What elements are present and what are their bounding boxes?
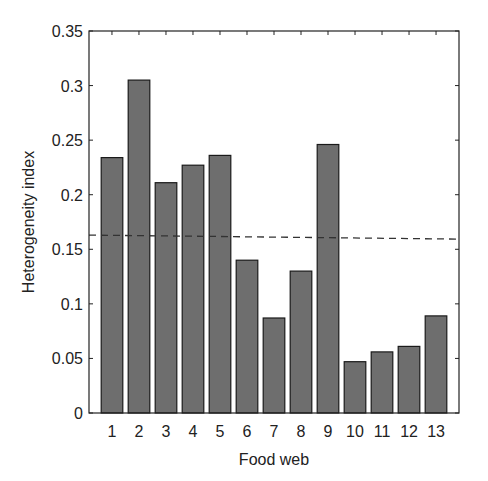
y-axis-label: Heterogeneity index xyxy=(20,151,37,293)
bar-food-web-11 xyxy=(371,352,393,413)
x-tick-label: 9 xyxy=(324,423,333,440)
bar-food-web-5 xyxy=(209,155,231,413)
x-tick-label: 4 xyxy=(189,423,198,440)
y-tick-label: 0.3 xyxy=(61,78,83,95)
bar-chart: 00.050.10.150.20.250.30.35 1234567891011… xyxy=(0,0,488,481)
x-tick-label: 3 xyxy=(162,423,171,440)
y-tick-label: 0 xyxy=(74,405,83,422)
x-tick-label: 7 xyxy=(270,423,279,440)
x-axis-label: Food web xyxy=(239,451,309,468)
x-tick-label: 10 xyxy=(346,423,364,440)
bar-food-web-7 xyxy=(263,318,285,413)
bar-food-web-1 xyxy=(101,158,123,413)
bar-food-web-4 xyxy=(182,165,204,413)
x-tick-label: 1 xyxy=(108,423,117,440)
bar-food-web-6 xyxy=(236,260,258,413)
bar-food-web-9 xyxy=(317,145,339,414)
x-tick-label: 6 xyxy=(243,423,252,440)
y-tick-label: 0.2 xyxy=(61,187,83,204)
x-tick-label: 5 xyxy=(216,423,225,440)
y-tick-label: 0.15 xyxy=(52,241,83,258)
x-tick-label: 8 xyxy=(297,423,306,440)
bar-food-web-2 xyxy=(128,80,150,413)
y-tick-label: 0.05 xyxy=(52,350,83,367)
bar-food-web-10 xyxy=(344,362,366,413)
bar-food-web-12 xyxy=(398,346,420,413)
bar-food-web-13 xyxy=(425,316,447,413)
bar-food-web-8 xyxy=(290,271,312,413)
x-tick-label: 13 xyxy=(427,423,445,440)
x-tick-label: 12 xyxy=(400,423,418,440)
x-tick-label: 2 xyxy=(135,423,144,440)
y-tick-label: 0.1 xyxy=(61,296,83,313)
y-tick-label: 0.25 xyxy=(52,132,83,149)
bars-group xyxy=(101,80,447,413)
y-tick-label: 0.35 xyxy=(52,23,83,40)
bar-food-web-3 xyxy=(155,183,177,413)
x-tick-label: 11 xyxy=(374,423,391,440)
